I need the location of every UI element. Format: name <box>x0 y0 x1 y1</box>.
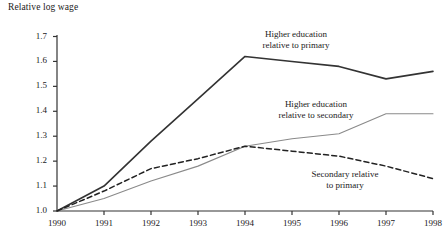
annotation-line-1: Higher education <box>263 29 330 40</box>
annotation-line-1: Secondary relative <box>311 169 378 180</box>
x-axis-tick-label: 1998 <box>413 218 443 228</box>
x-axis-tick-label: 1991 <box>84 218 124 228</box>
annotation-line-2: to primary <box>311 180 378 191</box>
x-axis-tick-label: 1993 <box>178 218 218 228</box>
plot-area <box>0 0 443 246</box>
x-axis-tick-label: 1990 <box>37 218 77 228</box>
x-axis-tick-label: 1992 <box>131 218 171 228</box>
series-line <box>57 114 433 211</box>
y-axis-tick-label: 1.5 <box>21 80 47 90</box>
x-axis-tick-label: 1995 <box>272 218 312 228</box>
y-axis-tick-label: 1.6 <box>21 55 47 65</box>
chart-figure: Relative log wage 1.01.11.21.31.41.51.61… <box>0 0 443 246</box>
y-axis-tick-label: 1.4 <box>21 105 47 115</box>
y-axis-tick-label: 1.1 <box>21 180 47 190</box>
x-axis-tick-label: 1997 <box>366 218 406 228</box>
series-annotation: Secondary relativeto primary <box>311 169 378 190</box>
annotation-line-1: Higher education <box>279 99 354 110</box>
x-axis-tick-label: 1994 <box>225 218 265 228</box>
y-axis-tick-label: 1.2 <box>21 155 47 165</box>
x-axis-tick-label: 1996 <box>319 218 359 228</box>
series-annotation: Higher educationrelative to primary <box>263 29 330 50</box>
y-axis-tick-label: 1.7 <box>21 31 47 41</box>
series-annotation: Higher educationrelative to secondary <box>279 99 354 120</box>
x-axis-ticks <box>104 211 433 215</box>
y-axis-tick-label: 1.3 <box>21 130 47 140</box>
y-axis-tick-label: 1.0 <box>21 205 47 215</box>
annotation-line-2: relative to secondary <box>279 110 354 121</box>
annotation-line-2: relative to primary <box>263 40 330 51</box>
